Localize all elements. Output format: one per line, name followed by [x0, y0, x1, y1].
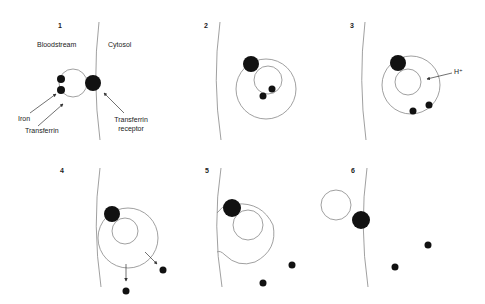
iron-atom — [426, 102, 433, 109]
iron-atom — [425, 242, 432, 249]
transferrin-receptor — [352, 211, 370, 229]
iron-release-arrow — [145, 252, 157, 264]
iron-atom — [410, 108, 417, 115]
iron-atom — [260, 93, 267, 100]
panel-2 — [216, 22, 296, 140]
panel-number-1: 1 — [58, 22, 62, 29]
iron-atom — [57, 86, 65, 94]
panel-number-6: 6 — [351, 167, 355, 174]
plasma-membrane — [217, 168, 222, 287]
iron-atom — [57, 75, 65, 83]
transferrin-receptor-label-line2: receptor — [108, 125, 154, 133]
transferrin-receptor — [390, 55, 406, 71]
transferrin-receptor — [223, 199, 241, 217]
iron-pointer-arrow — [30, 94, 56, 113]
panel-6 — [321, 168, 432, 287]
transferrin-receptor-label-line1: Transferrin — [108, 116, 154, 124]
transferrin-receptor — [243, 56, 259, 72]
iron-atom — [269, 86, 276, 93]
proton-label: H⁺ — [454, 68, 463, 76]
panel-number-2: 2 — [204, 22, 208, 29]
transferrin-receptor — [85, 75, 101, 91]
apotransferrin — [321, 190, 351, 220]
iron-label: Iron — [18, 115, 30, 123]
transferrin-pointer-arrow — [38, 104, 63, 126]
transferrin — [395, 69, 421, 95]
plasma-membrane — [216, 22, 221, 140]
transferrin — [254, 66, 282, 94]
iron-atom — [260, 280, 267, 287]
receptor-pointer-arrow — [104, 93, 124, 113]
bloodstream-label: Bloodstream — [37, 41, 76, 49]
panel-number-5: 5 — [205, 167, 209, 174]
panel-5 — [217, 168, 296, 287]
transferrin-receptor — [104, 206, 120, 222]
iron-atom — [392, 264, 399, 271]
panel-number-3: 3 — [350, 22, 354, 29]
plasma-membrane — [362, 22, 366, 140]
iron-atom — [160, 267, 167, 274]
transferrin — [112, 218, 138, 244]
iron-atom — [123, 288, 130, 295]
iron-atom — [289, 262, 296, 269]
cytosol-label: Cytosol — [108, 41, 131, 49]
transferrin-cycle-figure: 1 2 3 4 5 6 Bloodstream Cytosol Iron Tra… — [0, 0, 485, 304]
panel-number-4: 4 — [60, 167, 64, 174]
panel-4 — [96, 168, 166, 295]
transferrin-label: Transferrin — [25, 127, 59, 135]
panel-3 — [362, 22, 452, 140]
